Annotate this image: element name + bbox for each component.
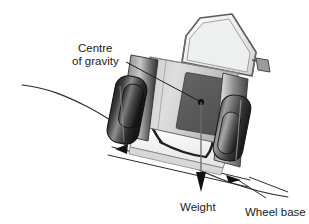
weight-label: Weight	[180, 201, 216, 213]
centre-of-gravity-label-line1: Centre	[78, 42, 113, 54]
weight-arrow-head	[196, 172, 206, 192]
wheel-base-arrow-left	[115, 144, 128, 154]
diagram-canvas: Centre of gravity Weight Wheel base	[0, 0, 309, 224]
wheel-base-leader	[238, 180, 266, 198]
side-mirror	[256, 58, 270, 72]
centre-of-gravity-label-line2: of gravity	[72, 55, 119, 67]
side-mirror-arm	[252, 60, 257, 61]
tractor-slope-diagram: Centre of gravity Weight Wheel base	[0, 0, 309, 224]
wheel-base-label: Wheel base	[245, 206, 306, 218]
